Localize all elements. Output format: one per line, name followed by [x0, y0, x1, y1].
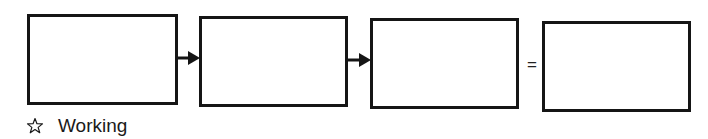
flow-box-1 — [27, 14, 178, 105]
flow-box-2 — [199, 16, 348, 107]
legend-label: Working — [58, 115, 127, 137]
flow-box-3 — [370, 18, 519, 109]
equals-sign: = — [524, 54, 540, 76]
legend: Working — [26, 115, 127, 137]
arrow-right-icon — [177, 51, 200, 65]
flow-box-4 — [542, 21, 691, 112]
arrow-right-icon — [347, 53, 371, 67]
star-outline-icon — [26, 117, 44, 135]
